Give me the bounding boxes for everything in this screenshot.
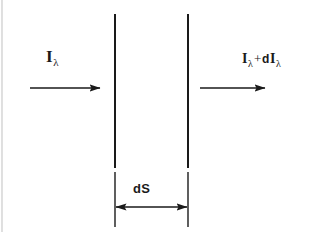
incident-intensity-symbol: I [46, 47, 53, 66]
differential-operator-symbol: d [262, 52, 269, 66]
incident-wavelength-subscript: λ [53, 56, 59, 68]
radiative-transfer-diagram: Iλ Iλ+dIλ dS [0, 0, 314, 232]
plus-operator: + [254, 51, 261, 66]
emergent-intensity-symbol-2: I [270, 51, 276, 66]
incident-intensity-label: Iλ [46, 48, 59, 68]
diagram-canvas [0, 0, 314, 232]
emergent-intensity-label: Iλ+dIλ [242, 52, 281, 69]
emergent-wavelength-subscript: λ [248, 58, 253, 69]
emergent-wavelength-subscript-2: λ [276, 58, 281, 69]
emergent-intensity-symbol: I [242, 51, 248, 66]
slab-thickness-label: dS [133, 182, 150, 195]
